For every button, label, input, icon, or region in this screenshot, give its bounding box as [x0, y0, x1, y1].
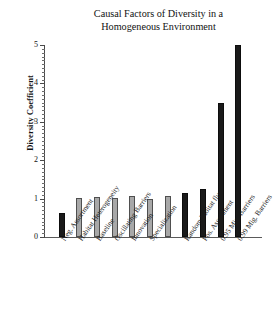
- y-tick-label: 4: [34, 79, 38, 87]
- y-tick-label: 2: [34, 156, 38, 164]
- y-tick-label: 1: [34, 195, 38, 203]
- chart-title: Causal Factors of Diversity in a Homogen…: [46, 8, 271, 33]
- chart-figure: Causal Factors of Diversity in a Homogen…: [0, 0, 277, 317]
- chart-title-line-2: Homogeneous Environment: [46, 21, 271, 34]
- y-tick-label: 0: [34, 233, 38, 241]
- chart-title-line-1: Causal Factors of Diversity in a: [46, 8, 271, 21]
- y-tick-label: 5: [34, 41, 38, 49]
- x-axis-tick-labels: Neg. AssortmentHabitat HeterogeneityBase…: [44, 238, 277, 317]
- y-tick-label: 3: [34, 118, 38, 126]
